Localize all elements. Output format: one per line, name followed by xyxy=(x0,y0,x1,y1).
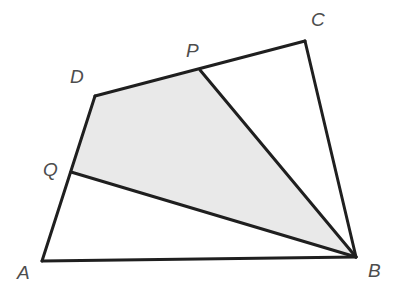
label-B: B xyxy=(368,260,381,281)
figure-canvas: A B C D P Q xyxy=(0,0,402,289)
label-A: A xyxy=(16,262,30,283)
label-P: P xyxy=(186,40,199,61)
geometry-figure: A B C D P Q xyxy=(0,0,402,289)
label-D: D xyxy=(70,66,84,87)
label-C: C xyxy=(311,9,325,30)
label-Q: Q xyxy=(43,159,58,180)
